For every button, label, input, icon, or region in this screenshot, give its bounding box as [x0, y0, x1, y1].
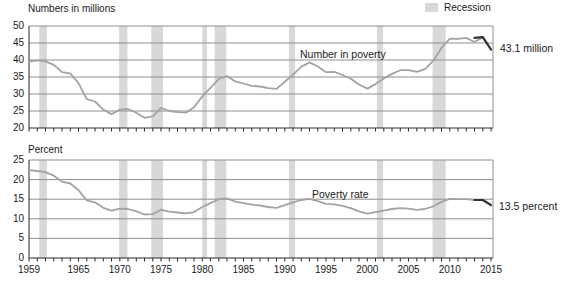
top-panel-title: Numbers in millions — [28, 3, 115, 14]
x-tick-label: 1980 — [185, 264, 219, 276]
y-tick-label: 15 — [0, 193, 24, 205]
x-tick-label: 2000 — [350, 264, 384, 276]
y-tick-label: 0 — [0, 252, 24, 264]
recession-legend: Recession — [425, 2, 491, 13]
y-tick-label: 45 — [0, 37, 24, 49]
number-end-annotation: 43.1 million — [500, 42, 553, 54]
y-tick-label: 10 — [0, 213, 24, 225]
y-tick-label: 25 — [0, 105, 24, 117]
highlight-final-segment — [475, 200, 492, 205]
y-tick-label: 20 — [0, 174, 24, 186]
x-tick-label: 1975 — [144, 264, 178, 276]
recession-band — [39, 160, 47, 258]
recession-legend-label: Recession — [444, 2, 491, 13]
recession-band — [433, 160, 446, 258]
recession-band — [377, 160, 383, 258]
y-tick-label: 25 — [0, 154, 24, 166]
y-tick-label: 30 — [0, 88, 24, 100]
recession-band — [215, 160, 227, 258]
y-tick-label: 20 — [0, 122, 24, 134]
x-tick-label: 2015 — [474, 264, 508, 276]
x-tick-label: 2010 — [433, 264, 467, 276]
y-tick-label: 5 — [0, 232, 24, 244]
recession-swatch-icon — [425, 3, 438, 12]
recession-band — [289, 160, 295, 258]
poverty-rate-line — [29, 170, 491, 214]
x-tick-label: 1970 — [103, 264, 137, 276]
bottom-panel-title: Percent — [28, 144, 62, 155]
y-tick-label: 40 — [0, 54, 24, 66]
x-tick-label: 1959 — [12, 264, 46, 276]
poverty-rate-label: Poverty rate — [312, 188, 369, 200]
y-tick-label: 35 — [0, 71, 24, 83]
number-in-poverty-label: Number in poverty — [300, 48, 386, 60]
x-tick-label: 2005 — [392, 264, 426, 276]
poverty-two-panel-figure: Numbers in millions Recession Number in … — [0, 0, 570, 290]
y-tick-label: 50 — [0, 20, 24, 32]
recession-band — [202, 160, 207, 258]
x-tick-label: 1995 — [309, 264, 343, 276]
rate-end-annotation: 13.5 percent — [499, 200, 557, 212]
x-tick-label: 1965 — [62, 264, 96, 276]
x-tick-label: 1990 — [268, 264, 302, 276]
x-tick-label: 1985 — [227, 264, 261, 276]
chart-canvas — [0, 0, 570, 290]
